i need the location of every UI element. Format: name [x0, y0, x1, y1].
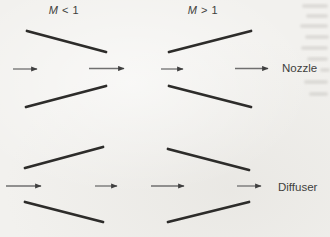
duct-bottom-wall [26, 86, 106, 107]
duct-top-wall [27, 31, 106, 52]
duct-diagram-canvas [0, 0, 330, 237]
panel-diffuser-supersonic [151, 149, 261, 222]
scan-artifact [305, 35, 329, 39]
diffuser-row-label: Diffuser [278, 181, 317, 193]
scan-artifact [302, 4, 328, 8]
mach-relation: > 1 [201, 4, 218, 16]
mach-subsonic-header: M< 1 [49, 5, 79, 16]
scan-artifact [304, 80, 328, 84]
duct-bottom-wall [168, 202, 249, 222]
scan-artifact [309, 92, 328, 96]
panel-nozzle-subsonic [13, 31, 124, 107]
duct-top-wall [168, 149, 249, 170]
mach-symbol: M [49, 4, 58, 16]
scan-artifact [320, 68, 330, 72]
mach-supersonic-header: M> 1 [188, 5, 218, 16]
scan-artifact [307, 57, 328, 61]
scan-artifact [301, 46, 328, 50]
scan-artifact [306, 14, 328, 18]
duct-bottom-wall [169, 86, 251, 107]
duct-top-wall [25, 147, 103, 168]
nozzle-row-label: Nozzle [282, 62, 317, 74]
scan-artifact [300, 24, 328, 28]
duct-bottom-wall [25, 202, 103, 222]
panel-nozzle-supersonic [161, 31, 268, 107]
panel-diffuser-subsonic [6, 147, 117, 222]
mach-symbol: M [188, 4, 197, 16]
duct-top-wall [169, 31, 251, 52]
mach-relation: < 1 [62, 4, 79, 16]
textbook-figure-nozzle-diffuser: M< 1 M> 1 Nozzle Diffuser [0, 0, 330, 237]
